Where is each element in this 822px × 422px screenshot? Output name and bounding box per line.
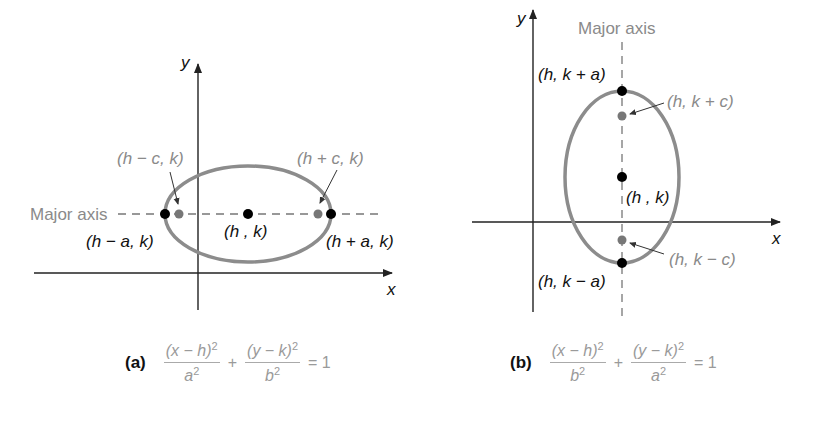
focus-bottom-point — [618, 236, 627, 245]
focus-left-point — [175, 210, 184, 219]
figure-b-tag: (b) — [510, 353, 532, 373]
figure-a: x y Major axis (h − c, k) (h + c, k) (h … — [30, 53, 396, 310]
vertex-bottom-label: (h, k − a) — [538, 272, 606, 291]
fraction-y-term: (y − k)2 b2 — [245, 340, 300, 386]
figure-a-tag: (a) — [125, 353, 146, 373]
center-point — [243, 209, 253, 219]
focus-top-point — [618, 112, 627, 121]
vertex-right-label: (h + a, k) — [326, 232, 394, 251]
plus-sign: + — [614, 354, 623, 372]
fraction-x-term: (x − h)2 b2 — [550, 340, 606, 386]
center-label: (h , k) — [626, 188, 669, 207]
focus-right-point — [314, 210, 323, 219]
equation-a: (a) (x − h)2 a2 + (y − k)2 b2 = 1 — [125, 340, 335, 386]
plus-sign: + — [228, 354, 237, 372]
vertex-left-label: (h − a, k) — [86, 232, 154, 251]
vertex-top-point — [617, 86, 627, 96]
center-point — [617, 172, 627, 182]
fraction-x-term: (x − h)2 a2 — [164, 340, 220, 386]
focus-right-label: (h + c, k) — [297, 149, 364, 168]
equation-b: (b) (x − h)2 b2 + (y − k)2 a2 = 1 — [510, 340, 721, 386]
center-label: (h , k) — [224, 222, 267, 241]
major-axis-label: Major axis — [578, 19, 655, 38]
vertex-top-label: (h, k + a) — [538, 65, 606, 84]
equals-one: = 1 — [694, 354, 717, 372]
fraction-y-term: (y − k)2 a2 — [631, 340, 686, 386]
focus-bottom-label: (h, k − c) — [669, 250, 736, 269]
y-axis-label: y — [180, 53, 191, 72]
focus-top-label: (h, k + c) — [667, 92, 734, 111]
y-axis-label: y — [516, 9, 527, 28]
x-axis-label: x — [386, 280, 396, 299]
equals-one: = 1 — [308, 354, 331, 372]
major-axis-label: Major axis — [30, 205, 107, 224]
focus-left-label: (h − c, k) — [117, 149, 184, 168]
x-axis-label: x — [771, 229, 781, 248]
vertex-bottom-point — [617, 258, 627, 268]
figure-b: x y Major axis (h, k + a) (h, k + c) (h … — [472, 9, 781, 318]
vertex-right-point — [326, 209, 336, 219]
vertex-left-point — [160, 209, 170, 219]
